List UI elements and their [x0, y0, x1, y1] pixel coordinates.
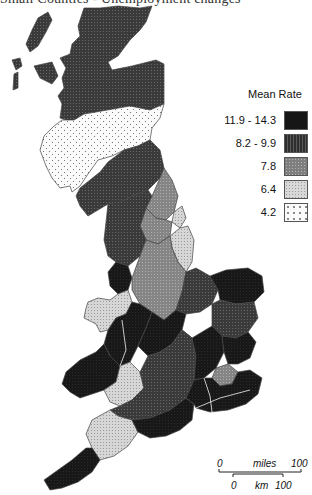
great-britain-map [0, 0, 312, 495]
legend-swatch-dark [284, 134, 308, 153]
scale-km-end: 100 [275, 480, 292, 491]
legend-title: Mean Rate [248, 88, 302, 100]
legend-swatch-lightest [284, 203, 308, 222]
legend-item-4: 6.4 [206, 179, 312, 201]
scale-miles-start: 0 [217, 458, 223, 469]
legend-label: 4.2 [261, 206, 276, 218]
region-highlands [58, 6, 164, 122]
scale-miles-label: miles [253, 458, 276, 469]
legend-label: 8.2 - 9.9 [236, 137, 276, 149]
legend-swatch-darkest [284, 111, 308, 130]
region-norfolk [210, 268, 264, 304]
region-outer-hebrides [26, 12, 52, 52]
region-cornwall [44, 448, 100, 490]
legend-item-5: 4.2 [206, 202, 312, 224]
legend-label: 6.4 [261, 183, 276, 195]
scale-bar-lines [215, 469, 310, 479]
region-merseyside [108, 262, 132, 294]
legend-item-3: 7.8 [206, 156, 312, 178]
legend-label: 7.8 [261, 160, 276, 172]
scale-km-label: km [255, 480, 268, 491]
legend-label: 11.9 - 14.3 [224, 114, 276, 126]
legend-swatch-light [284, 180, 308, 199]
legend-item-1: 11.9 - 14.3 [206, 110, 312, 132]
legend-item-2: 8.2 - 9.9 [206, 133, 312, 155]
scale-miles-end: 100 [291, 458, 308, 469]
legend-swatch-medium [284, 157, 308, 176]
scale-bar: 0 miles 100 0 km 100 [215, 458, 310, 494]
region-west-isles [12, 58, 58, 90]
scale-km-start: 0 [231, 480, 237, 491]
region-essex-coast [222, 332, 256, 364]
region-suffolk-essex [212, 300, 258, 338]
